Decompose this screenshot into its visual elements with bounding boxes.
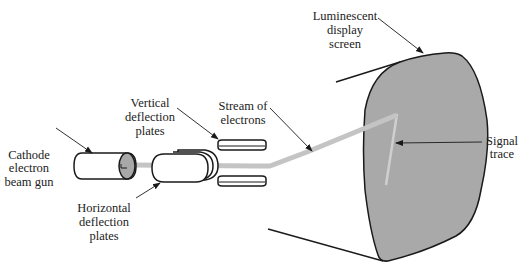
label-cathode-gun: Cathode electron beam gun — [5, 148, 55, 189]
display-screen — [364, 53, 488, 261]
screen-bottom-edge-line — [268, 229, 383, 261]
label-gun-line-2: electron — [9, 161, 50, 175]
label-horizontal-plates: Horizontal deflection plates — [77, 201, 131, 243]
horizontal-deflection-plate — [152, 154, 208, 182]
label-vertical-line-2: deflection — [125, 110, 176, 124]
stream-leader-arrow — [270, 108, 312, 151]
label-signal-line-1: Signal — [486, 134, 518, 148]
label-screen: Luminescent display screen — [313, 9, 378, 51]
screen-leader-arrow — [378, 18, 423, 53]
vertical-plate-bottom — [218, 176, 266, 186]
label-horizontal-line-2: deflection — [79, 215, 130, 229]
label-gun-line-3: beam gun — [5, 175, 55, 189]
label-stream-line-1: Stream of — [219, 99, 269, 113]
label-vertical-line-1: Vertical — [131, 96, 170, 110]
label-vertical-plates: Vertical deflection plates — [125, 96, 176, 138]
label-signal-trace: Signal trace — [486, 134, 518, 161]
label-stream-line-2: electrons — [220, 113, 265, 127]
label-screen-line-1: Luminescent — [313, 9, 378, 23]
vertical-plate-top — [218, 140, 266, 150]
label-signal-line-2: trace — [490, 147, 515, 161]
gun-leader-arrow — [56, 128, 92, 153]
cathode-gun — [74, 153, 136, 179]
label-horizontal-line-1: Horizontal — [77, 201, 131, 215]
label-vertical-line-3: plates — [135, 124, 164, 138]
label-horizontal-line-3: plates — [89, 229, 118, 243]
label-gun-line-1: Cathode — [8, 148, 50, 162]
horizontal-leader-arrow — [136, 183, 160, 198]
vertical-leader-arrow — [177, 108, 218, 139]
crt-diagram: Cathode electron beam gun Vertical defle… — [0, 0, 526, 270]
label-screen-line-3: screen — [329, 37, 362, 51]
label-screen-line-2: display — [327, 23, 364, 37]
label-stream: Stream of electrons — [219, 99, 269, 127]
